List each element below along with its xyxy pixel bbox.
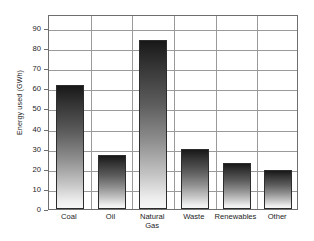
category-separator xyxy=(91,16,92,209)
x-axis-tick-label-line: Gas xyxy=(127,221,177,230)
plot-area xyxy=(48,15,298,210)
bar xyxy=(139,40,167,209)
y-axis-tick-label: 60 xyxy=(0,86,41,94)
y-axis-tick-label: 30 xyxy=(0,146,41,154)
y-axis-tick-label: 20 xyxy=(0,166,41,174)
category-separator xyxy=(257,16,258,209)
y-axis-tick-label: 90 xyxy=(0,25,41,33)
y-axis-tick-label: 0 xyxy=(0,206,41,214)
bar xyxy=(98,155,126,209)
category-separator xyxy=(174,16,175,209)
y-axis-tick-group: 0102030405060708090 xyxy=(0,15,48,210)
bar xyxy=(223,163,251,209)
category-separator xyxy=(132,16,133,209)
x-axis-tick-label-line: Other xyxy=(252,212,302,221)
x-axis-tick-label: Other xyxy=(252,212,302,221)
y-axis-tick-label: 80 xyxy=(0,45,41,53)
bar xyxy=(264,170,292,209)
bar-chart: Energy used (GWh) 0102030405060708090 Co… xyxy=(0,0,314,241)
bar xyxy=(181,149,209,209)
x-axis-label-group: CoalOilNaturalGasWasteRenewablesOther xyxy=(48,212,298,240)
y-axis-tick-mark xyxy=(44,210,48,211)
y-axis-tick-label: 10 xyxy=(0,186,41,194)
bars-layer xyxy=(49,16,297,209)
y-axis-tick-label: 70 xyxy=(0,65,41,73)
category-separator xyxy=(216,16,217,209)
y-axis-tick-label: 40 xyxy=(0,126,41,134)
y-axis-tick-label: 50 xyxy=(0,106,41,114)
bar xyxy=(56,85,84,209)
